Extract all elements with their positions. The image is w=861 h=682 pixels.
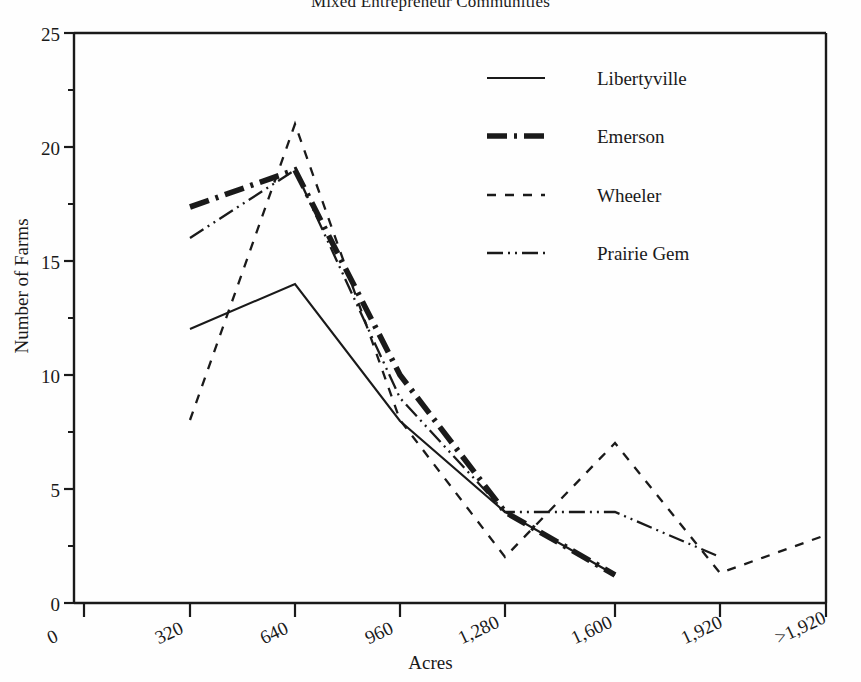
series-line-wheeler [190,124,826,573]
series-line-libertyville [190,284,615,575]
series-line-prairie-gem [190,170,720,557]
x-axis-ticks [84,603,826,617]
chart-svg [0,0,861,682]
axis-frame [74,33,826,603]
chart-container: Mixed Entrepreneur Communities Number of… [0,0,861,682]
series-line-emerson [190,170,615,575]
